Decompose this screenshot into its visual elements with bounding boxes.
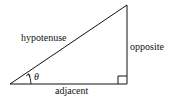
- right-triangle-diagram: θ hypotenuse opposite adjacent: [0, 0, 170, 106]
- adjacent-label: adjacent: [55, 85, 89, 96]
- right-angle-marker: [118, 76, 127, 84]
- hypotenuse-label: hypotenuse: [21, 32, 67, 43]
- angle-arrowhead-icon: [26, 74, 30, 77]
- opposite-label: opposite: [130, 41, 164, 52]
- hypotenuse-side: [10, 5, 127, 84]
- angle-label-theta: θ: [34, 71, 39, 82]
